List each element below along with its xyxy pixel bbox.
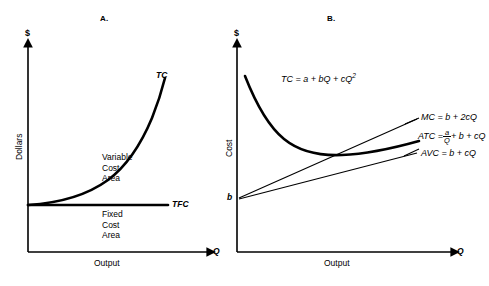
- variable-cost-line-3: Area: [102, 173, 133, 184]
- panel-b-x-axis-symbol: Q: [457, 246, 464, 256]
- atc-fraction-numerator: a: [443, 129, 451, 137]
- panel-a-x-axis-symbol: Q: [213, 246, 220, 256]
- panel-b-avc-line: [239, 153, 417, 199]
- fixed-cost-line-3: Area: [102, 230, 123, 241]
- atc-fraction: aQ: [443, 129, 451, 145]
- panel-a-tc-curve: [28, 78, 165, 205]
- fixed-cost-line-1: Fixed: [102, 209, 123, 220]
- tc-formula-exponent: 2: [352, 72, 356, 79]
- panel-b-mc-line: [239, 119, 417, 198]
- atc-label-prefix: ATC =: [418, 131, 443, 141]
- variable-cost-line-1: Variable: [102, 152, 133, 163]
- panel-a-y-axis-label: Dollars: [14, 134, 24, 160]
- atc-label-suffix: + b + cQ: [451, 131, 486, 141]
- panel-b-avc-label: AVC = b + cQ: [421, 148, 476, 158]
- panel-b-intercept-label: b: [227, 192, 232, 202]
- panel-b-atc-curve: [245, 76, 419, 155]
- panel-b-mc-label: MC = b + 2cQ: [421, 112, 477, 122]
- figure-container: A. B. $: [0, 0, 489, 286]
- figure-vector-layer: [0, 0, 489, 286]
- atc-fraction-denominator: Q: [443, 136, 451, 145]
- panel-a-y-axis-unit: $: [25, 28, 30, 38]
- panel-b-x-axis-label: Output: [324, 258, 350, 268]
- panel-b-atc-label: ATC =aQ+ b + cQ: [418, 129, 485, 145]
- tc-formula-text: TC = a + bQ + cQ: [281, 74, 352, 84]
- panel-a-x-axis-label: Output: [94, 258, 120, 268]
- panel-a-tfc-label: TFC: [172, 199, 189, 209]
- panel-b-tc-formula: TC = a + bQ + cQ2: [281, 72, 356, 84]
- panel-a-variable-cost-area: Variable Cost Area: [102, 152, 133, 184]
- panel-a-fixed-cost-area: Fixed Cost Area: [102, 209, 123, 241]
- panel-b-y-axis-unit: $: [234, 28, 239, 38]
- variable-cost-line-2: Cost: [102, 163, 133, 174]
- panel-a-tc-label: TC: [156, 70, 167, 80]
- panel-b-mc-leader: [405, 118, 419, 124]
- fixed-cost-line-2: Cost: [102, 220, 123, 231]
- panel-b-y-axis-label: Cost: [224, 140, 234, 157]
